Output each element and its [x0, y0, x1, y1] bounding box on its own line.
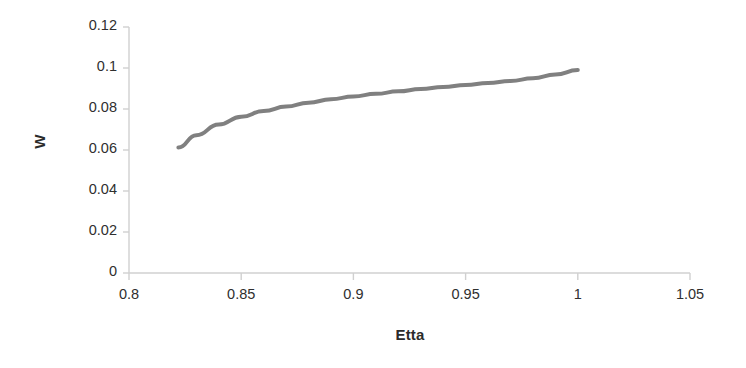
y-axis-tick-label: 0.04	[57, 181, 117, 197]
y-axis-tick-label: 0.02	[57, 222, 117, 238]
chart-container: W Etta 00.020.040.060.080.10.12 0.80.850…	[0, 0, 746, 368]
y-axis-tick-label: 0.1	[57, 58, 117, 74]
x-axis-title: Etta	[340, 326, 480, 343]
y-axis-title: W	[31, 125, 48, 159]
data-series-layer	[178, 70, 577, 147]
y-axis-tick-label: 0.08	[57, 99, 117, 115]
x-axis-tick-label: 1	[548, 286, 608, 302]
y-axis-tick-label: 0	[57, 263, 117, 279]
x-axis-tick-label: 0.8	[99, 286, 159, 302]
x-axis-tick-label: 1.05	[660, 286, 720, 302]
x-axis-tick-label: 0.9	[323, 286, 383, 302]
x-axis-tick-label: 0.85	[211, 286, 271, 302]
axis-layer	[123, 27, 690, 280]
y-axis-tick-label: 0.06	[57, 140, 117, 156]
data-line	[178, 70, 577, 147]
y-axis-tick-label: 0.12	[57, 17, 117, 33]
x-axis-tick-label: 0.95	[436, 286, 496, 302]
